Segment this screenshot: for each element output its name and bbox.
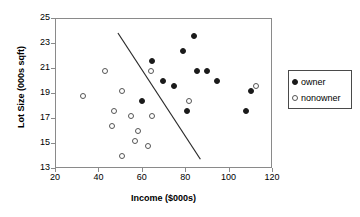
data-point-nonowner bbox=[186, 98, 192, 104]
data-point-nonowner bbox=[119, 153, 125, 159]
data-point-nonowner bbox=[149, 113, 155, 119]
y-tick-mark bbox=[51, 43, 55, 44]
data-point-owner bbox=[191, 33, 197, 39]
data-point-nonowner bbox=[80, 93, 86, 99]
legend-label-owner: owner bbox=[301, 77, 326, 87]
x-tick-mark bbox=[142, 168, 143, 172]
x-tick-label: 60 bbox=[127, 172, 157, 182]
legend-item-owner[interactable]: owner bbox=[292, 74, 351, 90]
x-tick-label: 80 bbox=[170, 172, 200, 182]
y-tick-mark bbox=[51, 143, 55, 144]
data-point-nonowner bbox=[132, 138, 138, 144]
open-circle-icon bbox=[292, 95, 298, 101]
data-point-owner bbox=[139, 98, 145, 104]
y-tick-mark bbox=[51, 93, 55, 94]
data-point-owner bbox=[214, 78, 220, 84]
x-tick-label: 40 bbox=[83, 172, 113, 182]
data-point-nonowner bbox=[102, 68, 108, 74]
data-point-owner bbox=[204, 68, 210, 74]
data-point-nonowner bbox=[253, 83, 259, 89]
data-point-owner bbox=[160, 78, 166, 84]
data-point-owner bbox=[243, 108, 249, 114]
data-point-nonowner bbox=[135, 128, 141, 134]
data-point-nonowner bbox=[128, 113, 134, 119]
y-tick-mark bbox=[51, 68, 55, 69]
x-tick-mark bbox=[229, 168, 230, 172]
x-tick-label: 20 bbox=[40, 172, 70, 182]
x-tick-mark bbox=[98, 168, 99, 172]
plot-area bbox=[55, 18, 272, 168]
filled-circle-icon bbox=[292, 79, 298, 85]
x-tick-mark bbox=[55, 168, 56, 172]
data-point-owner bbox=[171, 83, 177, 89]
x-tick-mark bbox=[185, 168, 186, 172]
y-tick-mark bbox=[51, 118, 55, 119]
data-point-nonowner bbox=[145, 143, 151, 149]
y-tick-mark bbox=[51, 168, 55, 169]
x-tick-mark bbox=[272, 168, 273, 172]
data-point-nonowner bbox=[119, 88, 125, 94]
y-tick-mark bbox=[51, 18, 55, 19]
x-tick-label: 100 bbox=[214, 172, 244, 182]
data-point-nonowner bbox=[148, 68, 154, 74]
x-tick-label: 120 bbox=[257, 172, 287, 182]
data-point-owner bbox=[149, 58, 155, 64]
scatter-chart: Lot Size (000s sqft) Income ($000s) 1315… bbox=[0, 0, 360, 217]
legend-item-nonowner[interactable]: nonowner bbox=[292, 90, 351, 106]
data-point-owner bbox=[184, 108, 190, 114]
legend: owner nonowner bbox=[288, 70, 352, 109]
data-point-nonowner bbox=[109, 123, 115, 129]
data-point-owner bbox=[194, 68, 200, 74]
legend-label-nonowner: nonowner bbox=[301, 93, 341, 103]
